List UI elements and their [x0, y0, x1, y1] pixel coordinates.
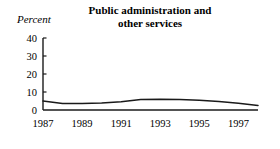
x-axis-tick-label: 1997 [228, 118, 249, 129]
chart-plot-area: 010203040 198719891991199319951997 [0, 0, 280, 149]
x-axis-tick-label: 1995 [189, 118, 210, 129]
x-axis-tick-label: 1991 [111, 118, 132, 129]
x-axis-tick-label: 1989 [72, 118, 93, 129]
data-series-line [43, 99, 258, 105]
x-axis-tick-labels: 198719891991199319951997 [33, 118, 249, 129]
y-axis-tick-label: 0 [32, 105, 37, 116]
x-axis-tick-label: 1987 [33, 118, 54, 129]
y-axis-tick-labels: 010203040 [27, 33, 38, 116]
x-axis-tick-label: 1993 [150, 118, 171, 129]
y-axis-tick-label: 30 [27, 51, 38, 62]
y-axis-tick-label: 20 [27, 69, 38, 80]
y-axis-tick-label: 40 [27, 33, 38, 44]
y-axis-tick-label: 10 [27, 87, 38, 98]
chart-page: Public administration and other services… [0, 0, 280, 149]
